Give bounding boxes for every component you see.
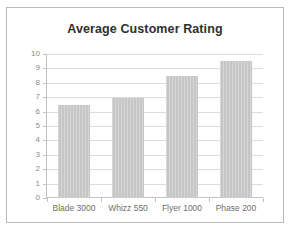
bar[interactable] [220,61,253,198]
gridline [47,54,263,55]
y-axis-tick-mark [43,184,47,185]
y-axis-tick-label: 7 [36,93,40,101]
chart-title: Average Customer Rating [7,22,283,36]
chart-card: Average Customer Rating 012345678910 Bla… [0,0,295,238]
x-axis-category-label: Flyer 1000 [162,204,202,213]
x-axis-category-label: Whizz 550 [108,204,148,213]
y-axis-tick-mark [43,68,47,69]
y-axis-tick-label: 5 [36,122,40,130]
y-axis-tick-label: 3 [36,151,40,159]
x-axis-tick-mark [101,198,102,202]
x-axis-category-label: Blade 3000 [52,204,95,213]
y-axis-tick-label: 6 [36,108,40,116]
bar[interactable] [58,105,91,198]
y-axis-tick-label: 8 [36,79,40,87]
y-axis-tick-label: 1 [36,180,40,188]
x-axis-tick-mark [47,198,48,202]
y-axis-tick-mark [43,140,47,141]
bar[interactable] [166,76,199,198]
y-axis-tick-label: 0 [36,194,40,202]
y-axis-tick-label: 10 [31,50,40,58]
y-axis-tick-mark [43,155,47,156]
y-axis-tick-mark [43,97,47,98]
x-axis-category-label: Phase 200 [216,204,257,213]
x-axis-tick-mark [209,198,210,202]
bar[interactable] [112,98,145,198]
y-axis-tick-label: 9 [36,64,40,72]
y-axis-tick-label: 4 [36,136,40,144]
x-axis-tick-mark [155,198,156,202]
chart-frame: Average Customer Rating 012345678910 Bla… [6,7,284,223]
y-axis-tick-mark [43,112,47,113]
y-axis-tick-mark [43,169,47,170]
y-axis-tick-mark [43,126,47,127]
y-axis-tick-mark [43,83,47,84]
y-axis-tick-label: 2 [36,165,40,173]
x-axis-tick-mark [263,198,264,202]
plot-area: 012345678910 Blade 3000Whizz 550Flyer 10… [47,54,263,198]
y-axis-tick-mark [43,54,47,55]
